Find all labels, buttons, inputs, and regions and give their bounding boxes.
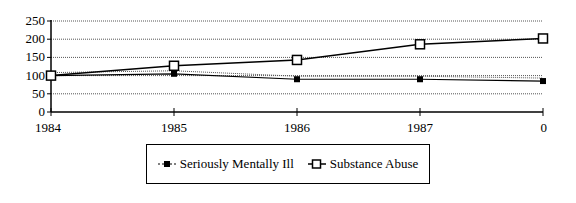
data-series — [47, 34, 548, 84]
legend-label: Substance Abuse — [330, 156, 418, 172]
data-point — [293, 55, 302, 64]
y-tick-label: 250 — [26, 13, 46, 28]
data-point — [294, 76, 300, 82]
x-tick-label: 1987 — [407, 120, 434, 135]
data-point — [540, 78, 546, 84]
legend-label: Seriously Mentally Ill — [180, 156, 294, 172]
legend: Seriously Mentally Ill Substance Abuse — [146, 144, 430, 184]
line-chart: 050100150200250 19841985198619870 — [0, 0, 576, 140]
data-point — [170, 61, 179, 70]
filled-square-marker-icon — [158, 159, 176, 169]
series-seriously-mentally-ill — [48, 71, 546, 84]
data-point — [47, 71, 56, 80]
x-tick-label: 1984 — [35, 120, 62, 135]
data-point — [417, 76, 423, 82]
y-tick-label: 0 — [39, 104, 46, 119]
x-tick-label: 0 — [541, 120, 548, 135]
axes — [51, 20, 543, 112]
y-tick-label: 200 — [26, 31, 46, 46]
legend-item-substance-abuse: Substance Abuse — [308, 156, 418, 172]
y-tick-label: 150 — [26, 49, 46, 64]
x-tick-label: 1985 — [161, 120, 187, 135]
open-square-marker-icon — [308, 159, 326, 169]
y-tick-label: 100 — [26, 68, 46, 83]
data-point — [171, 71, 177, 77]
x-tick-label: 1986 — [284, 120, 311, 135]
data-point — [539, 34, 548, 43]
y-axis-ticks: 050100150200250 — [26, 13, 52, 119]
legend-item-seriously-mentally-ill: Seriously Mentally Ill — [158, 156, 294, 172]
data-point — [416, 40, 425, 49]
y-tick-label: 50 — [32, 86, 45, 101]
